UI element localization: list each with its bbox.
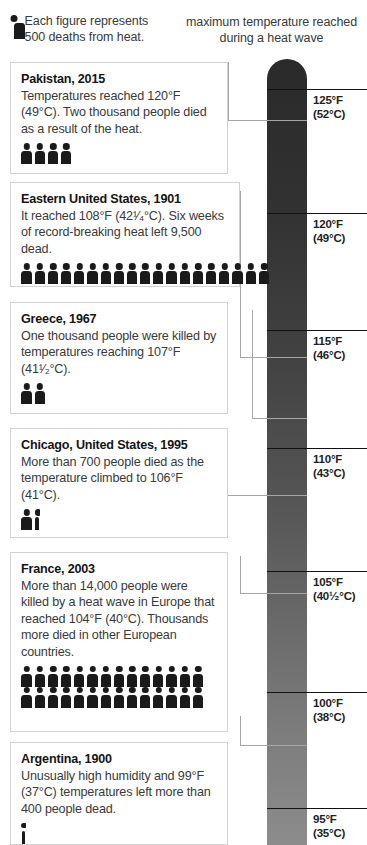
axis-label-95f: 95°F (35°C)	[313, 813, 345, 840]
person-pictogram-icon	[61, 263, 73, 284]
event-body: Unusually high humidity and 99°F (37°C) …	[21, 768, 217, 817]
pictogram-row	[21, 383, 47, 404]
person-pictogram-icon	[47, 143, 59, 164]
legend-text: Each figure represents 500 deaths from h…	[25, 14, 149, 45]
axis-tick-125f	[267, 89, 367, 90]
person-pictogram-icon	[21, 823, 26, 844]
person-pictogram-icon	[100, 666, 112, 687]
pictogram-group	[21, 666, 217, 708]
legend-line-2: 500 deaths from heat.	[25, 30, 145, 44]
connector-france-h	[240, 593, 307, 594]
pictogram-row	[21, 509, 42, 530]
person-pictogram-icon	[192, 687, 204, 708]
axis-label-110f-f: 110°F	[313, 453, 342, 465]
person-pictogram-icon	[232, 263, 244, 284]
connector-pakistan-h	[228, 120, 307, 121]
person-pictogram-icon	[21, 509, 33, 530]
person-pictogram-icon	[179, 263, 191, 284]
axis-label-95f-f: 95°F	[313, 813, 337, 825]
axis-tick-110f	[267, 448, 367, 449]
person-pictogram-icon	[61, 143, 73, 164]
person-pictogram-icon	[21, 383, 33, 404]
person-pictogram-icon	[179, 687, 191, 708]
event-title: Pakistan, 2015	[21, 71, 217, 87]
person-pictogram-icon	[47, 263, 59, 284]
connector-argentina-v	[240, 716, 241, 745]
event-title: Chicago, United States, 1995	[21, 437, 217, 453]
event-title: France, 2003	[21, 561, 217, 577]
axis-label-115f-f: 115°F	[313, 335, 342, 347]
event-card-pakistan[interactable]: Pakistan, 2015 Temperatures reached 120°…	[10, 62, 228, 174]
axis-tick-100f	[267, 692, 367, 693]
connector-france-v	[240, 556, 241, 593]
person-pictogram-icon	[21, 143, 33, 164]
pictogram-group	[21, 143, 217, 164]
person-pictogram-icon	[113, 263, 125, 284]
axis-label-120f-c: (49°C)	[313, 232, 345, 246]
event-title: Eastern United States, 1901	[21, 191, 229, 207]
pictogram-group	[21, 823, 217, 844]
person-pictogram-icon	[219, 263, 231, 284]
person-pictogram-icon	[21, 263, 33, 284]
axis-label-115f-c: (46°C)	[313, 349, 345, 363]
person-pictogram-icon	[87, 263, 99, 284]
event-body: More than 14,000 people were killed by a…	[21, 578, 217, 660]
person-pictogram-icon	[113, 687, 125, 708]
axis-label-125f: 125°F (52°C)	[313, 94, 345, 121]
pictogram-row	[21, 143, 74, 164]
scale-caption-line-1: maximum temperature reached	[186, 15, 357, 29]
event-card-argentina[interactable]: Argentina, 1900 Unusually high humidity …	[10, 742, 228, 845]
pictogram-group	[21, 383, 217, 404]
axis-label-100f-c: (38°C)	[313, 711, 345, 725]
axis-label-120f-f: 120°F	[313, 218, 343, 230]
person-pictogram-icon	[140, 263, 152, 284]
person-pictogram-icon	[153, 263, 165, 284]
connector-greece-h	[252, 418, 307, 419]
person-pictogram-icon	[166, 263, 178, 284]
axis-label-120f: 120°F (49°C)	[313, 218, 345, 245]
axis-tick-115f	[267, 330, 367, 331]
axis-label-105f-f: 105°F	[313, 576, 343, 588]
event-body: It reached 108°F (42¹⁄₄°C). Six weeks of…	[21, 208, 229, 257]
person-pictogram-icon	[127, 687, 139, 708]
person-pictogram-icon	[127, 666, 139, 687]
infographic-canvas: Each figure represents 500 deaths from h…	[0, 0, 367, 845]
event-card-france[interactable]: France, 2003 More than 14,000 people wer…	[10, 552, 228, 732]
person-pictogram-icon	[258, 263, 270, 284]
pictogram-row	[21, 687, 206, 708]
axis-label-95f-c: (35°C)	[313, 827, 345, 841]
scale-caption-line-2: during a heat wave	[220, 31, 324, 45]
axis-label-100f: 100°F (38°C)	[313, 697, 345, 724]
person-pictogram-icon	[74, 687, 86, 708]
axis-tick-105f	[267, 571, 367, 572]
connector-greece-v	[252, 310, 253, 418]
person-pictogram-icon	[245, 263, 257, 284]
connector-eastern-us-h	[240, 357, 307, 358]
person-pictogram-icon	[140, 666, 152, 687]
temperature-thermometer-bar	[267, 59, 307, 845]
person-pictogram-icon	[34, 666, 46, 687]
pictogram-row	[21, 263, 272, 284]
axis-label-110f-c: (43°C)	[313, 467, 345, 481]
person-pictogram-icon	[166, 687, 178, 708]
person-pictogram-icon	[74, 263, 86, 284]
person-pictogram-icon	[192, 263, 204, 284]
event-card-eastern-united-states[interactable]: Eastern United States, 1901 It reached 1…	[10, 182, 240, 287]
person-pictogram-icon	[127, 263, 139, 284]
person-pictogram-icon	[47, 687, 59, 708]
person-pictogram-icon	[14, 15, 16, 33]
pictogram-group	[21, 263, 229, 284]
event-card-greece[interactable]: Greece, 1967 One thousand people were ki…	[10, 302, 228, 414]
event-card-chicago[interactable]: Chicago, United States, 1995 More than 7…	[10, 428, 228, 538]
pictogram-row	[21, 666, 206, 687]
person-pictogram-icon	[87, 666, 99, 687]
person-pictogram-icon	[34, 143, 46, 164]
person-pictogram-icon	[153, 687, 165, 708]
event-body: Temperatures reached 120°F (49°C). Two t…	[21, 88, 217, 137]
person-pictogram-icon	[74, 666, 86, 687]
legend-line-1: Each figure represents	[25, 14, 149, 28]
pictogram-group	[21, 509, 217, 530]
person-pictogram-icon	[100, 687, 112, 708]
connector-chicago-h	[222, 495, 307, 496]
person-pictogram-icon	[47, 666, 59, 687]
